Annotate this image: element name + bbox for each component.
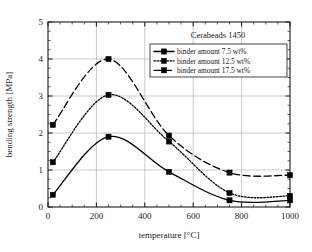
data-point-marker	[106, 92, 111, 97]
y-tick-label: 4	[39, 54, 44, 64]
legend: binder amount 7.5 wt%binder amount 12.5 …	[150, 44, 287, 77]
y-axis-title: bending strength [MPa]	[4, 72, 14, 158]
data-point-marker	[166, 139, 171, 144]
data-point-marker	[287, 193, 292, 198]
x-axis-title: temperature [°C]	[139, 230, 200, 240]
data-point-marker	[106, 134, 111, 139]
x-tick-label: 1000	[281, 211, 300, 221]
data-point-marker	[227, 198, 232, 203]
data-point-marker	[166, 133, 171, 138]
series-1	[50, 92, 292, 198]
data-point-marker	[166, 169, 171, 174]
data-series	[50, 56, 292, 203]
y-tick-label: 5	[39, 17, 44, 27]
legend-marker-sample	[161, 58, 166, 63]
legend-label: binder amount 12.5 wt%	[177, 57, 250, 66]
x-tick-label: 600	[186, 211, 200, 221]
x-tick-label: 400	[138, 211, 152, 221]
bending-strength-line-chart: 02004006008001000012345 temperature [°C]…	[0, 0, 312, 252]
x-tick-label: 0	[46, 211, 51, 221]
data-point-marker	[287, 173, 292, 178]
data-point-marker	[50, 160, 55, 165]
y-tick-label: 0	[39, 202, 44, 212]
data-point-marker	[227, 170, 232, 175]
legend-marker-sample	[161, 49, 166, 54]
data-point-marker	[50, 122, 55, 127]
legend-label: binder amount 17.5 wt%	[177, 66, 250, 75]
y-tick-label: 1	[39, 165, 44, 175]
x-tick-label: 200	[90, 211, 104, 221]
data-point-marker	[50, 192, 55, 197]
x-tick-label: 800	[235, 211, 249, 221]
data-point-marker	[227, 190, 232, 195]
series-line	[53, 95, 290, 198]
data-point-marker	[106, 56, 111, 61]
series-0	[50, 134, 292, 203]
y-tick-label: 2	[39, 128, 44, 138]
chart-title: Cerabeads 1450	[191, 30, 246, 40]
y-tick-label: 3	[39, 91, 44, 101]
chart-figure: 02004006008001000012345 temperature [°C]…	[0, 0, 312, 252]
legend-label: binder amount 7.5 wt%	[177, 47, 246, 56]
legend-marker-sample	[161, 68, 166, 73]
